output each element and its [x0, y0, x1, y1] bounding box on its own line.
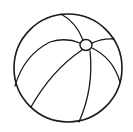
panel-seam-top	[61, 14, 83, 40]
panel-seam-right	[92, 48, 120, 82]
panel-seam-left	[15, 40, 80, 86]
beach-ball-illustration: beach ball line drawing	[0, 0, 133, 132]
panel-seam-upper-right	[92, 39, 114, 43]
ball-outline	[14, 14, 122, 122]
panel-seam-lower-left	[31, 50, 82, 107]
ball-top-cap	[80, 40, 92, 51]
beach-ball-icon	[0, 0, 133, 132]
panel-seam-bottom	[79, 51, 91, 122]
